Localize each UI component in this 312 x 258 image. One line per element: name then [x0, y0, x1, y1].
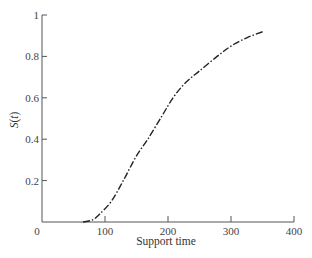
y-axis-title-arg: (t): [8, 112, 21, 123]
y-ticks: 0.20.40.60.81: [25, 9, 47, 187]
x-tick-label: 300: [223, 225, 240, 237]
x-tick-label: 400: [286, 225, 303, 237]
origin-label: 0: [34, 225, 40, 237]
x-ticks: 100200300400: [97, 216, 303, 237]
survival-curve-line: [83, 32, 263, 222]
x-axis-title: Support time: [136, 235, 196, 248]
axes: [42, 15, 294, 222]
y-tick-label: 1: [34, 9, 40, 21]
y-tick-label: 0.4: [25, 133, 39, 145]
x-tick-label: 100: [97, 225, 114, 237]
y-tick-label: 0.2: [25, 175, 39, 187]
survival-curve-chart: 0.20.40.60.81 100200300400 0 Support tim…: [0, 0, 312, 258]
y-tick-label: 0.8: [25, 50, 39, 62]
y-axis-title: S(t): [8, 112, 21, 129]
y-tick-label: 0.6: [25, 92, 39, 104]
